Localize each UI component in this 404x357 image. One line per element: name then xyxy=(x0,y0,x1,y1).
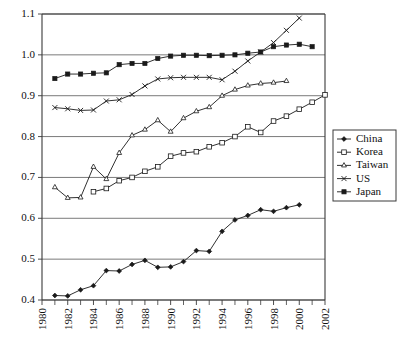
data-point-marker xyxy=(194,149,199,154)
data-point-marker xyxy=(78,287,83,292)
line-chart: 0.40.50.60.70.80.91.01.1 198019821984198… xyxy=(0,0,404,357)
x-tick-label: 2002 xyxy=(319,308,331,330)
y-tick-label: 0.8 xyxy=(21,130,35,142)
data-point-marker xyxy=(168,265,173,270)
data-point-marker xyxy=(284,28,289,33)
data-point-marker xyxy=(156,56,160,60)
data-point-marker xyxy=(52,184,57,188)
data-point-marker xyxy=(117,63,121,67)
data-point-marker xyxy=(284,114,289,119)
data-point-marker xyxy=(310,45,314,49)
data-point-marker xyxy=(117,178,122,183)
data-point-marker xyxy=(91,164,96,168)
data-point-marker xyxy=(297,16,302,21)
y-tick-label: 0.7 xyxy=(21,170,35,182)
data-point-marker xyxy=(91,71,95,75)
data-point-marker xyxy=(297,42,301,46)
x-axis-tick-labels: 1980198219841986198819901992199419961998… xyxy=(36,308,331,331)
data-point-marker xyxy=(117,269,122,274)
data-point-marker xyxy=(284,205,289,210)
x-tick-label: 1986 xyxy=(113,308,125,331)
data-point-marker xyxy=(245,58,250,63)
x-axis-ticks xyxy=(42,300,325,305)
data-point-marker xyxy=(143,258,148,263)
x-tick-label: 1996 xyxy=(242,308,254,331)
x-tick-label: 1992 xyxy=(190,308,202,330)
y-tick-label: 0.6 xyxy=(21,211,35,223)
data-point-marker xyxy=(53,76,57,80)
x-tick-label: 2000 xyxy=(293,308,305,331)
data-point-marker xyxy=(78,195,83,199)
data-point-marker xyxy=(258,207,263,212)
x-tick-label: 1984 xyxy=(87,308,99,331)
data-point-marker xyxy=(207,144,212,149)
data-point-marker xyxy=(342,150,347,155)
data-point-marker xyxy=(259,50,263,54)
x-tick-label: 1988 xyxy=(139,308,151,331)
series-japan xyxy=(53,42,314,81)
data-point-marker xyxy=(271,119,276,124)
data-point-marker xyxy=(207,249,212,254)
data-point-marker xyxy=(323,93,328,98)
data-point-marker xyxy=(258,81,263,85)
data-point-marker xyxy=(130,61,134,65)
x-tick-label: 1990 xyxy=(165,308,177,331)
data-point-marker xyxy=(245,213,250,218)
data-point-marker xyxy=(232,69,237,74)
data-point-marker xyxy=(142,83,147,88)
data-point-marker xyxy=(297,107,302,112)
series-china xyxy=(52,202,301,298)
data-point-marker xyxy=(142,127,147,131)
y-axis-ticks xyxy=(38,14,42,300)
legend-label: US xyxy=(356,172,370,184)
data-point-marker xyxy=(181,151,186,156)
data-point-marker xyxy=(207,54,211,58)
series-taiwan xyxy=(52,78,288,199)
data-point-marker xyxy=(104,71,108,75)
y-tick-label: 1.0 xyxy=(21,48,35,60)
data-point-marker xyxy=(207,104,212,108)
data-point-marker xyxy=(220,140,225,145)
series-line xyxy=(55,18,299,110)
data-point-marker xyxy=(130,262,135,267)
data-point-marker xyxy=(310,100,315,105)
data-point-marker xyxy=(246,124,251,129)
data-point-marker xyxy=(65,195,70,199)
data-point-marker xyxy=(342,190,346,194)
y-tick-label: 0.9 xyxy=(21,89,35,101)
data-point-marker xyxy=(220,53,224,57)
data-point-marker xyxy=(78,72,82,76)
data-point-marker xyxy=(143,169,148,174)
x-tick-label: 1998 xyxy=(268,308,280,331)
x-tick-label: 1982 xyxy=(62,308,74,330)
data-point-marker xyxy=(104,186,109,191)
data-point-marker xyxy=(52,293,57,298)
data-point-marker xyxy=(155,265,160,270)
data-point-marker xyxy=(66,72,70,76)
data-point-marker xyxy=(143,61,147,65)
data-point-marker xyxy=(271,209,276,214)
chart-legend: ChinaKoreaTaiwanUSJapan xyxy=(333,130,396,201)
data-point-marker xyxy=(271,45,275,49)
data-point-marker xyxy=(130,92,135,97)
data-series xyxy=(52,16,327,299)
data-point-marker xyxy=(155,117,160,121)
y-tick-label: 1.1 xyxy=(21,7,35,19)
data-point-marker xyxy=(194,53,198,57)
y-axis-tick-labels: 0.40.50.60.70.80.91.01.1 xyxy=(21,7,35,305)
chart-figure: 0.40.50.60.70.80.91.01.1 198019821984198… xyxy=(0,0,404,357)
data-point-marker xyxy=(65,294,70,299)
data-point-marker xyxy=(91,189,96,194)
data-point-marker xyxy=(246,51,250,55)
x-tick-label: 1980 xyxy=(36,308,48,331)
series-line xyxy=(55,81,287,198)
data-point-marker xyxy=(284,78,289,82)
data-point-marker xyxy=(297,202,302,207)
data-point-marker xyxy=(233,53,237,57)
data-point-marker xyxy=(181,53,185,57)
legend-label: Japan xyxy=(356,185,382,197)
y-tick-label: 0.5 xyxy=(21,252,35,264)
data-point-marker xyxy=(233,134,238,139)
data-point-marker xyxy=(258,130,263,135)
x-tick-label: 1994 xyxy=(216,308,228,331)
